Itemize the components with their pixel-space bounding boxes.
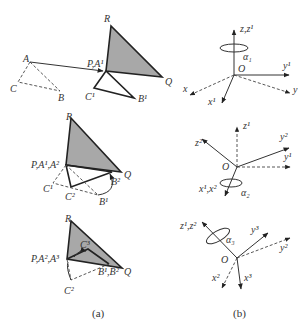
panel-b-frame1: z,z¹ α₁ O y¹ y x x¹ xyxy=(182,23,298,107)
triangle-pqr xyxy=(67,221,122,268)
triangle-a1b1c1 xyxy=(94,71,134,98)
label-x3: x³ xyxy=(243,272,252,283)
label-y1: y¹ xyxy=(283,151,291,162)
label-y3: y³ xyxy=(250,224,259,235)
label-alpha3: α₃ xyxy=(226,234,235,245)
label-z1-z2: z¹,z² xyxy=(179,220,197,231)
label-c1: C¹ xyxy=(85,91,95,102)
label-alpha2: α₂ xyxy=(241,187,250,198)
label-b1: B¹ xyxy=(138,93,147,104)
label-c3: C³ xyxy=(80,239,91,250)
axis-x xyxy=(190,75,234,95)
label-x1-x2: x¹,x² xyxy=(198,183,217,194)
triangle-abc-original xyxy=(18,62,60,91)
panel-a-step2: R Q P,A¹,A² C¹ C² B¹ B² xyxy=(30,111,132,207)
label-p-a1: P,A¹ xyxy=(86,58,103,69)
label-p-a1-a2: P,A¹,A² xyxy=(30,159,60,170)
label-o: O xyxy=(222,161,229,172)
label-q: Q xyxy=(165,76,173,87)
label-x1: x¹ xyxy=(207,96,215,107)
label-y2: y² xyxy=(279,242,288,253)
label-b: B xyxy=(58,92,64,103)
triangle-pqr xyxy=(66,118,121,172)
label-o: O xyxy=(238,63,245,74)
label-b1-b2: B¹,B² xyxy=(98,266,120,277)
panel-a-step3: R Q P,A²,A³ C³ C² B¹,B² xyxy=(30,213,132,296)
caption-a: (a) xyxy=(92,307,105,320)
axis-y2 xyxy=(237,148,289,167)
label-o: O xyxy=(221,254,228,265)
label-x2: x² xyxy=(211,272,220,283)
label-z1: z¹ xyxy=(242,120,250,131)
label-b1: B¹ xyxy=(99,196,108,207)
label-alpha1: α₁ xyxy=(243,51,252,62)
triangle-pqr xyxy=(106,26,162,77)
label-y2: y² xyxy=(279,131,288,142)
label-c2: C² xyxy=(65,191,76,202)
panel-b-frame2: z¹ z² y² y¹ O x¹,x² α₂ xyxy=(194,120,291,198)
label-z2: z² xyxy=(194,137,203,148)
axis-y3 xyxy=(237,233,268,258)
label-c1: C¹ xyxy=(43,183,53,194)
label-c: C xyxy=(10,83,17,94)
panel-b-frame3: z¹,z² α₃ y³ y² O x² x³ xyxy=(179,220,290,289)
axis-z2 xyxy=(202,139,237,167)
panel-a-step1: R Q P,A¹ A B C B¹ C¹ xyxy=(10,13,173,104)
label-z-z1: z,z¹ xyxy=(239,23,253,34)
label-c2: C² xyxy=(64,285,75,296)
label-r: R xyxy=(64,213,71,224)
axis-y xyxy=(234,75,290,93)
label-q: Q xyxy=(124,266,132,277)
label-y1: y¹ xyxy=(282,60,290,71)
label-b2: B² xyxy=(111,176,121,187)
label-y: y xyxy=(292,84,298,95)
label-a: A xyxy=(22,53,30,64)
label-r: R xyxy=(103,13,110,24)
label-p-a2-a3: P,A²,A³ xyxy=(30,253,60,264)
axis-x3 xyxy=(237,258,241,289)
label-r: R xyxy=(65,111,72,122)
label-q: Q xyxy=(124,169,132,180)
label-x: x xyxy=(182,83,188,94)
diagram-canvas: R Q P,A¹ A B C B¹ C¹ R Q P,A¹,A² C¹ C² B… xyxy=(0,0,308,334)
caption-b: (b) xyxy=(233,307,246,320)
